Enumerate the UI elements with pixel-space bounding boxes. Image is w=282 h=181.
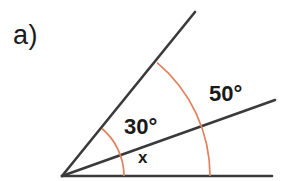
angle-label-30: 30° [124, 116, 157, 138]
outer-arc [157, 63, 210, 176]
angle-diagram-figure: a) 30° 50° x [0, 0, 282, 181]
angle-label-50: 50° [209, 83, 242, 105]
part-label: a) [13, 22, 38, 49]
inner-arc [102, 129, 124, 177]
angle-label-unknown: x [138, 149, 147, 166]
